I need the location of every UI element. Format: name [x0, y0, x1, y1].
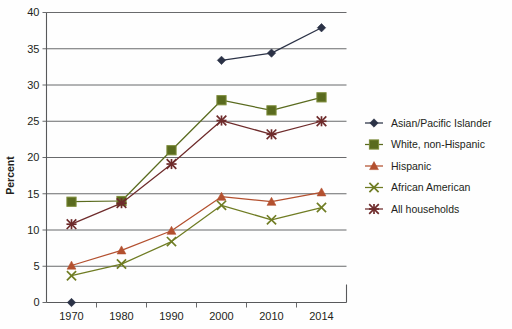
series-1	[67, 93, 326, 207]
marker-x	[167, 237, 176, 246]
marker-square	[217, 96, 226, 105]
marker-x	[67, 271, 76, 280]
series-line-segment	[172, 197, 222, 231]
series-0	[67, 24, 325, 307]
y-tick-label: 15	[27, 188, 39, 200]
marker-diamond	[217, 56, 225, 64]
x-axis-group: 197019801990200020102014	[59, 303, 333, 322]
marker-diamond	[67, 298, 75, 306]
x-tick-label: 1970	[59, 310, 83, 322]
chart-figure: 0510152025303540197019801990200020102014…	[0, 0, 512, 329]
y-tick-label: 10	[27, 224, 39, 236]
series-line-segment	[222, 53, 272, 60]
series-line-segment	[272, 28, 322, 53]
marker-square	[317, 93, 326, 102]
marker-square	[67, 197, 76, 206]
series-line-segment	[222, 100, 272, 110]
series-line-segment	[222, 197, 272, 202]
marker-star	[316, 116, 326, 126]
x-tick-label: 2010	[259, 310, 283, 322]
series-line-segment	[72, 203, 122, 224]
marker-diamond	[317, 24, 325, 32]
x-tick-label: 2000	[209, 310, 233, 322]
marker-x	[117, 259, 126, 268]
marker-star	[166, 159, 176, 169]
marker-square	[267, 106, 276, 115]
marker-x	[267, 215, 276, 224]
marker-triangle	[117, 246, 126, 254]
series-line-segment	[122, 242, 172, 264]
x-tick-label: 1980	[109, 310, 133, 322]
series-line-segment	[172, 205, 222, 241]
marker-star	[116, 198, 126, 208]
marker-x	[217, 201, 226, 210]
y-tick-label: 40	[27, 6, 39, 18]
series-line-segment	[272, 97, 322, 110]
y-tick-label: 35	[27, 43, 39, 55]
marker-star	[369, 204, 379, 214]
series-4	[66, 115, 326, 229]
legend: Asian/Pacific IslanderWhite, non-Hispani…	[365, 117, 492, 215]
gridlines-group: 0510152025303540	[27, 6, 346, 308]
legend-item[interactable]: Hispanic	[365, 160, 431, 172]
legend-item[interactable]: African American	[365, 181, 471, 193]
marker-square	[167, 146, 176, 155]
series-line-segment	[72, 201, 122, 202]
marker-diamond	[267, 49, 275, 57]
x-tick-label: 1990	[159, 310, 183, 322]
marker-star	[216, 115, 226, 125]
series-line-segment	[222, 121, 272, 135]
legend-item[interactable]: White, non-Hispanic	[365, 138, 485, 150]
series-line-segment	[122, 231, 172, 251]
y-axis-title: Percent	[4, 156, 16, 195]
y-tick-label: 30	[27, 79, 39, 91]
y-tick-label: 0	[33, 296, 39, 308]
series-line-segment	[272, 121, 322, 134]
y-tick-label: 25	[27, 115, 39, 127]
chart-canvas: 0510152025303540197019801990200020102014…	[0, 0, 512, 329]
series-group	[66, 24, 326, 307]
marker-star	[266, 129, 276, 139]
legend-label: White, non-Hispanic	[391, 138, 485, 150]
series-line-segment	[122, 164, 172, 203]
marker-x	[317, 203, 326, 212]
marker-star	[66, 219, 76, 229]
legend-label: Asian/Pacific Islander	[391, 117, 492, 129]
marker-square	[369, 140, 378, 149]
x-tick-label: 2014	[309, 310, 333, 322]
legend-label: Hispanic	[391, 160, 431, 172]
series-3	[67, 201, 326, 281]
legend-item[interactable]: All households	[365, 203, 459, 215]
series-2	[67, 188, 326, 269]
series-line-segment	[272, 208, 322, 220]
y-tick-label: 20	[27, 151, 39, 163]
series-line-segment	[72, 250, 122, 265]
legend-label: All households	[391, 203, 459, 215]
legend-item[interactable]: Asian/Pacific Islander	[365, 117, 492, 129]
marker-diamond	[370, 119, 378, 127]
marker-triangle	[317, 188, 326, 196]
y-tick-label: 5	[33, 260, 39, 272]
legend-label: African American	[391, 181, 471, 193]
series-line-segment	[222, 205, 272, 220]
